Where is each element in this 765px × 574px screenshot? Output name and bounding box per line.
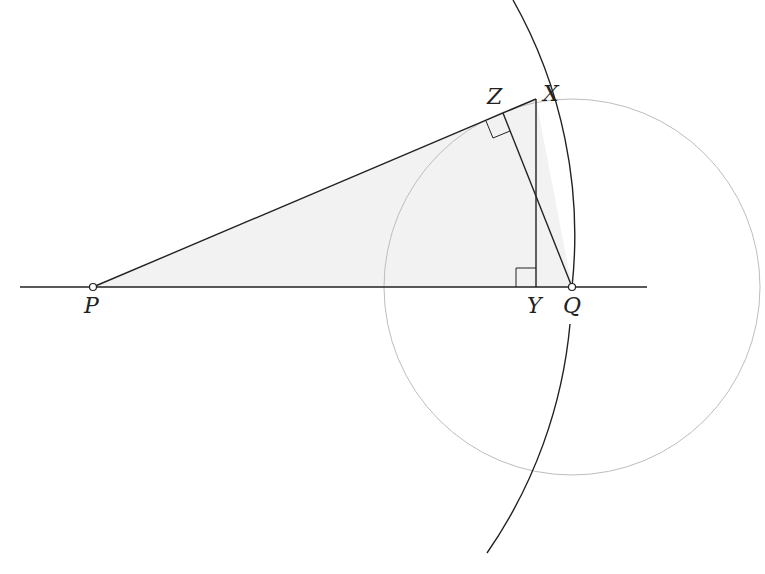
label-z: Z — [486, 84, 503, 109]
label-p: P — [83, 293, 100, 318]
point-p — [90, 284, 97, 291]
diagram-svg: P Q Y X Z — [0, 0, 765, 574]
point-q — [569, 284, 576, 291]
arc-centered-p-lower — [487, 324, 570, 553]
geometry-diagram: P Q Y X Z — [0, 0, 765, 574]
label-x: X — [541, 81, 560, 106]
triangle-pxq-fill — [93, 99, 572, 287]
label-y: Y — [527, 293, 544, 318]
label-q: Q — [563, 293, 581, 318]
